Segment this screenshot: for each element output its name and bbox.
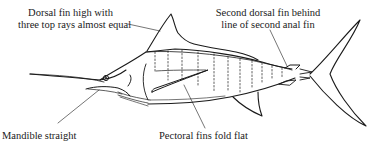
leader-second-dorsal — [270, 30, 287, 66]
leader-mandible — [58, 90, 99, 123]
tail-fin — [310, 20, 366, 126]
dorsal-fin-label: Dorsal fin high with three top rays almo… — [18, 7, 123, 31]
leader-dorsal — [128, 24, 160, 31]
second-anal-fin — [279, 80, 296, 85]
second-dorsal-fin-label-line2: line of second anal fin — [212, 19, 324, 31]
body-stripes — [155, 50, 282, 92]
gill-arch — [143, 64, 148, 100]
dorsal-fin-label-line1: Dorsal fin high with — [18, 7, 123, 19]
leader-lines — [58, 24, 287, 128]
caudal-keel-lower — [300, 77, 310, 80]
second-dorsal-fin-label-line1: Second dorsal fin behind — [212, 7, 324, 19]
gill-cover — [128, 75, 131, 86]
pectoral-fin-label: Pectoral fins fold flat — [159, 130, 248, 142]
dorsal-fin-label-line2: three top rays almost equal — [18, 19, 123, 31]
pectoral-fin — [152, 70, 208, 92]
mandible — [86, 87, 150, 106]
mandible-label: Mandible straight — [2, 130, 76, 142]
second-dorsal-fin-label: Second dorsal fin behind line of second … — [212, 7, 324, 31]
marlin-diagram: Dorsal fin high with three top rays almo… — [0, 0, 373, 146]
body-lower-outline — [148, 78, 295, 104]
body-upper-outline — [100, 49, 292, 80]
pectoral-fin-base — [156, 70, 206, 71]
leader-pectoral — [184, 85, 205, 128]
bill — [30, 70, 126, 82]
